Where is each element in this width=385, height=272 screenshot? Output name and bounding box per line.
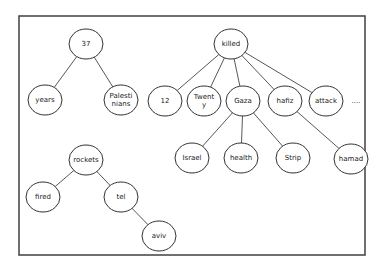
diagram-canvas: 37yearsPalestinianskilled12TwentyGazahaf…: [0, 0, 385, 272]
node-label: hamad: [339, 155, 363, 163]
node-label: 37: [82, 40, 91, 48]
node-12: 12: [148, 86, 182, 116]
node-37: 37: [69, 29, 103, 59]
node-years: years: [28, 85, 62, 115]
node-label: nians: [112, 100, 131, 108]
node-label: health: [230, 154, 252, 162]
node-label: fired: [35, 193, 51, 201]
node-fired: fired: [26, 182, 60, 212]
node-label: Palesti: [110, 92, 133, 100]
node-rockets: rockets: [69, 145, 103, 175]
node-label: rockets: [73, 156, 99, 164]
node-strip: Strip: [276, 143, 310, 173]
node-twenty: Twenty: [187, 86, 221, 116]
node-label: 12: [161, 97, 170, 105]
node-label: y: [202, 101, 206, 109]
node-label: Gaza: [234, 97, 252, 105]
ellipsis-more: ....: [352, 97, 361, 105]
node-label: Israel: [182, 154, 201, 162]
node-aviv: aviv: [142, 221, 176, 251]
node-tel: tel: [104, 182, 138, 212]
node-label: aviv: [152, 232, 167, 240]
node-attack: attack: [309, 86, 343, 116]
node-palestinians: Palestinians: [104, 85, 138, 115]
node-hamad: hamad: [334, 144, 368, 174]
node-label: killed: [222, 40, 241, 48]
node-label: hafiz: [277, 97, 294, 105]
node-killed: killed: [214, 29, 248, 59]
node-health: health: [224, 143, 258, 173]
node-label: Twent: [193, 93, 215, 101]
node-label: Strip: [285, 154, 302, 162]
node-label: tel: [117, 193, 126, 201]
node-label: attack: [315, 97, 338, 105]
node-gaza: Gaza: [226, 86, 260, 116]
node-israel: Israel: [175, 143, 209, 173]
node-label: years: [35, 96, 55, 104]
node-hafiz: hafiz: [268, 86, 302, 116]
